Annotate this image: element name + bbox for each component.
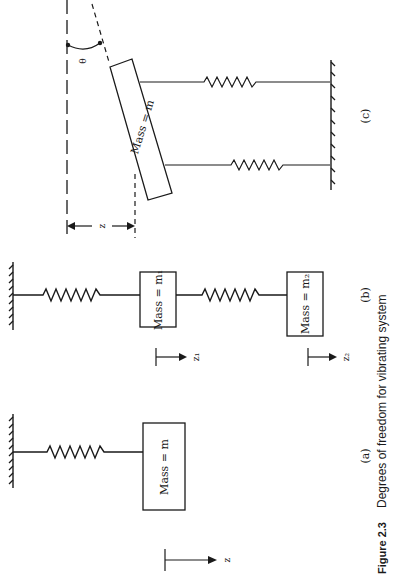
panel-label-a: (a) — [359, 448, 372, 463]
panel-b: Mass = m₁ Mass = m₂ z₁ z₂ (b) — [9, 262, 372, 366]
panel-label-c: (c) — [359, 109, 372, 124]
displacement-arrow-b2 — [308, 348, 337, 366]
caption-text: Degrees of freedom for vibrating system — [375, 295, 389, 508]
displacement-label-a: z — [222, 557, 232, 562]
spring-c1 — [140, 77, 330, 87]
figure-canvas: Mass = m z (a) Mass = m₁ Mass = m₂ — [0, 0, 396, 576]
caption-label: Figure 2.3 — [376, 522, 388, 574]
tilted-axis-c — [92, 4, 109, 62]
displacement-label-c: z — [97, 223, 107, 228]
panel-a: Mass = m z (a) — [9, 414, 372, 571]
mass-b1-label: Mass = m₁ — [152, 270, 165, 330]
spring-b1 — [13, 289, 140, 301]
displacement-label-b2: z₂ — [341, 352, 351, 361]
panel-c: θ Mass = m z (c) — [66, 0, 372, 240]
mass-a-label: Mass = m — [158, 439, 171, 495]
ground-c — [331, 60, 335, 190]
theta-arc — [68, 43, 100, 49]
spring-c2 — [165, 160, 330, 170]
displacement-label-b1: z₁ — [191, 353, 201, 361]
displacement-arrow-a — [165, 549, 217, 571]
ground-a — [9, 414, 13, 488]
panel-label-b: (b) — [359, 287, 372, 303]
displacement-arrow-b1 — [156, 348, 187, 366]
spring-b2 — [176, 289, 287, 301]
figure-caption: Figure 2.3 Degrees of freedom for vibrat… — [375, 295, 389, 574]
spring-a — [13, 446, 143, 501]
mass-b2-label: Mass = m₂ — [299, 274, 312, 334]
theta-label: θ — [78, 58, 88, 63]
ground-b — [9, 262, 13, 330]
